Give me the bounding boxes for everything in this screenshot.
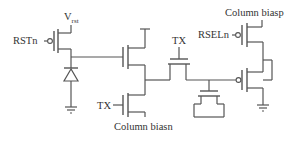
inverter-bubble-icon <box>236 78 241 83</box>
vrst-label: Vrst <box>64 11 79 25</box>
inverter-bubble-icon <box>236 33 241 38</box>
photodiode <box>64 57 78 113</box>
column-bias-nmos: TX Column biasn <box>97 80 173 132</box>
tx-top-label: TX <box>172 35 186 46</box>
reset-pmos-transistor: Vrst RSTn <box>13 11 79 57</box>
rseln-label: RSELn <box>198 29 230 40</box>
pixel-readout-circuit: Vrst RSTn <box>0 0 300 141</box>
output-pmos <box>236 60 272 111</box>
source-follower-nmos <box>123 29 150 80</box>
ground-icon <box>257 105 269 111</box>
inverter-bubble-icon <box>48 39 53 44</box>
mos-capacitor <box>194 80 224 117</box>
tx-transfer-nmos: TX <box>168 35 190 80</box>
rstn-label: RSTn <box>13 35 38 46</box>
column-biasn-label: Column biasn <box>114 121 173 132</box>
row-select-pmos: Column biasp RSELn <box>198 7 284 60</box>
tx-left-label: TX <box>97 100 111 111</box>
column-biasp-label: Column biasp <box>225 7 284 18</box>
ground-icon <box>65 107 77 113</box>
